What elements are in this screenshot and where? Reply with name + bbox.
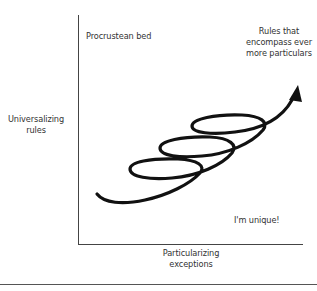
annotation-line-1: Rules that <box>240 26 317 37</box>
spiral-diagram: Universalizing rules Particularizing exc… <box>0 0 317 291</box>
annotation-line-2: encompass ever <box>240 37 317 48</box>
y-axis-label-line-1: Universalizing <box>4 114 68 125</box>
arrowhead-icon <box>289 85 302 102</box>
x-axis-label: Particularizing exceptions <box>152 248 230 270</box>
y-axis-label: Universalizing rules <box>4 114 68 136</box>
spiral-arrow-path <box>97 100 292 203</box>
annotation-procrustean-bed: Procrustean bed <box>86 31 151 42</box>
annotation-encompassing-rules: Rules that encompass ever more particula… <box>240 26 317 59</box>
annotation-im-unique: I'm unique! <box>234 215 280 226</box>
x-axis-label-line-2: exceptions <box>152 259 230 270</box>
annotation-line-3: more particulars <box>240 48 317 59</box>
x-axis-label-line-1: Particularizing <box>152 248 230 259</box>
y-axis-label-line-2: rules <box>4 125 68 136</box>
